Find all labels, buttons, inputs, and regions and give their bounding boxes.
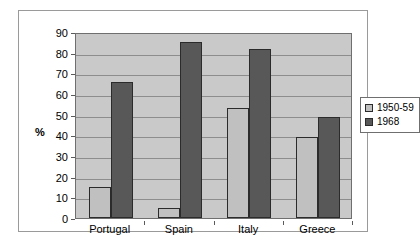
legend-item[interactable]: 1968	[365, 115, 414, 129]
bar-spain-1950-59	[158, 208, 180, 218]
y-tick-label: 80	[56, 48, 68, 59]
legend-swatch-icon	[365, 104, 373, 112]
x-tick-label: Italy	[238, 223, 258, 235]
gridline	[76, 55, 351, 56]
x-tick-mark	[352, 221, 353, 225]
y-tick-label: 0	[62, 214, 68, 225]
x-tick-mark	[144, 221, 145, 225]
y-tick-label: 50	[56, 110, 68, 121]
bar-portugal-1968	[111, 82, 133, 218]
bar-portugal-1950-59	[89, 187, 111, 218]
legend-label: 1968	[377, 117, 399, 127]
plot-area	[75, 33, 352, 219]
plot-inner	[76, 34, 351, 218]
chart-frame: % 9080706050403020100 PortugalSpainItaly…	[18, 10, 368, 232]
bar-italy-1950-59	[227, 108, 249, 218]
x-tick-label: Portugal	[89, 223, 130, 235]
y-tick-label: 90	[56, 28, 68, 39]
bar-greece-1968	[318, 117, 340, 218]
y-tick-mark	[71, 219, 75, 220]
y-tick-label: 70	[56, 69, 68, 80]
bar-italy-1968	[249, 49, 271, 218]
legend-item[interactable]: 1950-59	[365, 101, 414, 115]
x-tick-mark	[283, 221, 284, 225]
x-tick-mark	[214, 221, 215, 225]
bar-spain-1968	[180, 42, 202, 218]
y-tick-label: 30	[56, 152, 68, 163]
bar-greece-1950-59	[296, 137, 318, 218]
legend-label: 1950-59	[377, 103, 414, 113]
gridline	[76, 75, 351, 76]
legend-swatch-icon	[365, 118, 373, 126]
chart-legend: 1950-591968	[360, 97, 420, 133]
y-tick-label: 60	[56, 90, 68, 101]
x-axis: PortugalSpainItalyGreece	[75, 221, 352, 241]
y-axis: 9080706050403020100	[37, 33, 75, 219]
x-tick-label: Spain	[165, 223, 193, 235]
y-tick-label: 40	[56, 131, 68, 142]
y-tick-label: 20	[56, 172, 68, 183]
x-tick-label: Greece	[299, 223, 335, 235]
y-tick-label: 10	[56, 193, 68, 204]
